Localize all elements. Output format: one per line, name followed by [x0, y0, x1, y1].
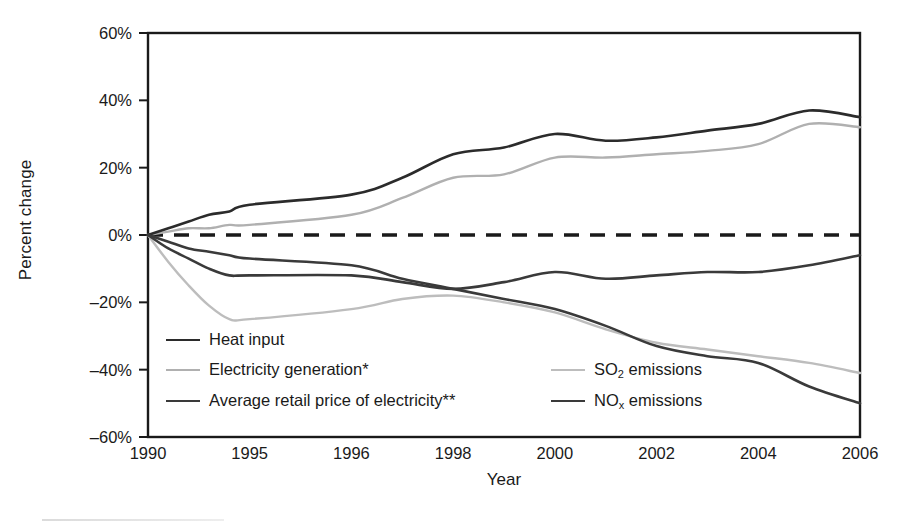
legend-line-swatch	[166, 339, 200, 341]
legend-item-label: Average retail price of electricity**	[209, 391, 455, 410]
legend-item-label: SO2 emissions	[594, 360, 702, 379]
legend-line-swatch	[551, 369, 585, 371]
legend-item-label: Electricity generation*	[209, 360, 369, 379]
legend-item-label: Heat input	[209, 330, 284, 349]
series-line-so2-emissions	[148, 235, 860, 373]
legend-item: SO2 emissions	[551, 360, 702, 379]
legend-item: NOx emissions	[551, 391, 702, 410]
series-line-heat-input	[148, 110, 860, 235]
legend-item: Electricity generation*	[166, 360, 369, 379]
plot-area	[0, 0, 919, 528]
legend-item: Heat input	[166, 330, 284, 349]
legend-line-swatch	[551, 400, 585, 402]
chart-figure: Percent change Year 60%40%20%0%–20%–40%–…	[0, 0, 919, 528]
legend-line-swatch	[166, 369, 200, 371]
legend-item: Average retail price of electricity**	[166, 391, 455, 410]
legend-line-swatch	[166, 400, 200, 402]
series-line-electricity-generation	[148, 123, 860, 235]
series-line-nox-emissions	[148, 235, 860, 289]
legend-item-label: NOx emissions	[594, 391, 702, 410]
page-scan-artifact	[42, 519, 224, 521]
